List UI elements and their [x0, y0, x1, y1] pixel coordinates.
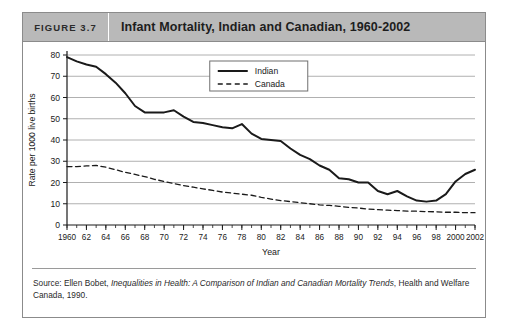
x-axis-title: Year [262, 247, 280, 257]
x-tick-label: 80 [257, 233, 267, 242]
source-prefix: Source: Ellen Bobet, [33, 278, 111, 288]
x-tick-label: 74 [198, 233, 208, 242]
x-tick-label: 72 [179, 233, 189, 242]
x-tick-label: 86 [315, 233, 325, 242]
x-tick-label: 66 [121, 233, 131, 242]
figure-container: FIGURE 3.7 Infant Mortality, Indian and … [0, 0, 508, 329]
x-tick-label: 94 [393, 233, 403, 242]
y-tick-label: 30 [50, 156, 60, 166]
x-tick-label: 90 [354, 233, 364, 242]
y-tick-label: 50 [50, 114, 60, 124]
x-tick-label: 82 [276, 233, 286, 242]
y-tick-label: 20 [50, 178, 60, 188]
x-tick-label: 1960 [58, 233, 77, 242]
y-tick-label: 0 [55, 220, 60, 230]
figure-number-label: FIGURE 3.7 [34, 22, 97, 33]
chart-plot-region: 0102030405060708019606264666870727476788… [23, 43, 485, 265]
x-tick-label: 62 [82, 233, 92, 242]
source-note: Source: Ellen Bobet, Inequalities in Hea… [33, 277, 475, 302]
y-axis-ticks: 01020304050607080 [50, 50, 67, 230]
x-tick-label: 92 [373, 233, 383, 242]
line-chart: 0102030405060708019606264666870727476788… [23, 43, 485, 265]
y-tick-label: 70 [50, 71, 60, 81]
legend-label-indian: Indian [255, 66, 279, 76]
x-tick-label: 2000 [446, 233, 465, 242]
x-tick-label: 98 [432, 233, 442, 242]
figure-header-bar: FIGURE 3.7 Infant Mortality, Indian and … [22, 12, 486, 42]
source-italic-title: Inequalities in Health: A Comparison of … [111, 278, 394, 288]
x-tick-label: 96 [412, 233, 422, 242]
figure-title: Infant Mortality, Indian and Canadian, 1… [121, 20, 410, 34]
y-tick-label: 80 [50, 50, 60, 60]
y-axis-title: Rate per 1000 live births [27, 93, 37, 186]
figure-title-cell: Infant Mortality, Indian and Canadian, 1… [109, 13, 485, 41]
y-tick-label: 60 [50, 93, 60, 103]
x-tick-label: 2002 [466, 233, 485, 242]
legend: IndianCanada [210, 61, 308, 91]
y-tick-label: 40 [50, 135, 60, 145]
x-tick-label: 78 [237, 233, 247, 242]
series-line-canada [67, 166, 475, 213]
note-divider [32, 268, 476, 269]
legend-label-canada: Canada [255, 79, 285, 89]
x-tick-label: 76 [218, 233, 228, 242]
y-tick-label: 10 [50, 199, 60, 209]
x-tick-label: 68 [140, 233, 150, 242]
x-tick-label: 84 [296, 233, 306, 242]
x-tick-label: 88 [334, 233, 344, 242]
figure-number-cell: FIGURE 3.7 [23, 13, 109, 41]
x-tick-label: 70 [160, 233, 170, 242]
x-tick-label: 64 [101, 233, 111, 242]
